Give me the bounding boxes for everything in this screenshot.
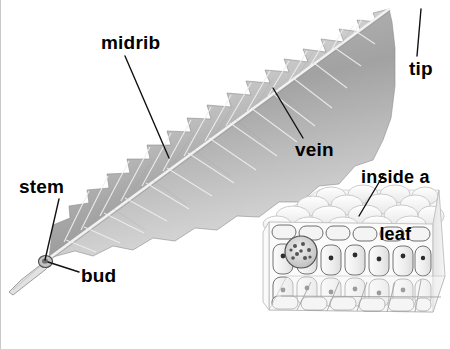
label-tip: tip: [409, 59, 433, 79]
leader-tip: [417, 9, 421, 56]
label-inside-a-leaf-line1: inside a: [361, 168, 430, 187]
leaf-diagram-figure: midrib tip vein stem bud inside a leaf: [0, 0, 450, 349]
label-stem: stem: [19, 177, 64, 197]
label-midrib: midrib: [101, 33, 160, 53]
label-inside-a-leaf-line2: leaf: [361, 225, 430, 244]
leader-bud: [48, 262, 79, 272]
leader-midrib: [125, 56, 169, 158]
stem-shading: [13, 262, 45, 290]
block-left-face: [263, 222, 269, 310]
label-vein: vein: [295, 140, 334, 160]
label-bud: bud: [81, 266, 116, 286]
label-inside-a-leaf: inside a leaf: [361, 131, 430, 281]
